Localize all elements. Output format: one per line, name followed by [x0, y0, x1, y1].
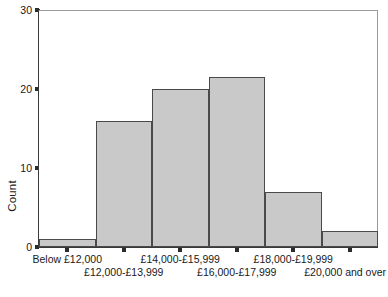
bar [39, 239, 96, 247]
x-axis-tick-mark [65, 248, 69, 252]
x-axis-tick-mark [348, 248, 352, 252]
x-axis-tick-mark [235, 248, 239, 252]
y-axis-tick-label: 0 [6, 242, 32, 252]
bars-layer [39, 10, 378, 247]
y-axis-tick-label: 20 [6, 84, 32, 94]
bar [152, 89, 209, 247]
x-axis-tick-mark [291, 248, 295, 252]
bar [96, 121, 153, 247]
x-axis-category-label: £16,000-£17,999 [197, 266, 276, 278]
x-axis-tick-mark [122, 248, 126, 252]
x-axis-category-label: £20,000 and over [304, 266, 386, 278]
y-axis-tick-labels: 0102030 [0, 0, 32, 297]
x-axis-tick-mark [178, 248, 182, 252]
x-axis-category-label: Below £12,000 [33, 253, 102, 265]
bar [209, 77, 266, 247]
x-axis-category-label: £12,000-£13,999 [84, 266, 163, 278]
bar [322, 231, 379, 247]
y-axis-tick-label: 10 [6, 163, 32, 173]
bar [265, 192, 322, 247]
x-axis-category-label: £14,000-£15,999 [141, 253, 220, 265]
y-axis-tick-label: 30 [6, 5, 32, 15]
histogram-figure: Count 0102030 Below £12,000£12,000-£13,9… [0, 0, 388, 297]
x-axis-category-label: £18,000-£19,999 [254, 253, 333, 265]
